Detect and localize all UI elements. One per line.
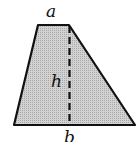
label-top-base: a — [46, 3, 56, 20]
trapezoid-shape — [14, 25, 135, 125]
trapezoid-figure — [0, 0, 139, 142]
label-bottom-base: b — [64, 129, 75, 142]
label-height: h — [51, 73, 62, 90]
trapezoid-diagram: a h b — [0, 0, 139, 142]
